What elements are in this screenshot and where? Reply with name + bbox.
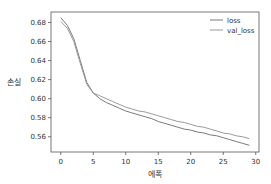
y-axis-label: 손실 (7, 77, 21, 87)
x-tick-label: 10 (121, 158, 130, 166)
x-tick-label: 15 (154, 158, 163, 166)
chart-canvas: 0510152025300.560.580.600.620.640.660.68… (0, 0, 271, 184)
y-tick-label: 0.66 (30, 38, 46, 46)
x-tick-label: 25 (219, 158, 228, 166)
y-tick-label: 0.68 (30, 19, 46, 27)
y-tick-label: 0.60 (30, 95, 46, 103)
legend-label-loss: loss (227, 17, 241, 25)
loss-chart: 0510152025300.560.580.600.620.640.660.68… (0, 0, 271, 184)
series-line-loss (61, 18, 250, 146)
x-tick-label: 20 (186, 158, 195, 166)
x-tick-label: 5 (91, 158, 95, 166)
legend-label-val-loss: val_loss (227, 27, 255, 35)
series-line-val-loss (61, 22, 250, 139)
x-axis-label: 에폭 (148, 170, 162, 179)
y-tick-label: 0.64 (30, 57, 46, 65)
y-tick-label: 0.56 (30, 133, 46, 141)
x-tick-label: 30 (251, 158, 260, 166)
x-tick-label: 0 (59, 158, 63, 166)
y-tick-label: 0.58 (30, 114, 46, 122)
y-tick-label: 0.62 (30, 76, 46, 84)
